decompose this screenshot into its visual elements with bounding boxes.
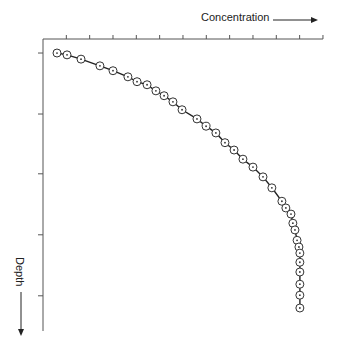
axes [38, 35, 323, 331]
data-point-center-dot [271, 187, 273, 189]
data-point-center-dot [112, 70, 114, 72]
data-point-center-dot [290, 213, 292, 215]
concentration-arrow-head-icon [311, 17, 318, 23]
depth-arrow-head-icon [18, 329, 24, 336]
data-point-center-dot [80, 58, 82, 60]
x-axis-label: Concentration [201, 11, 270, 23]
data-point-center-dot [299, 261, 301, 263]
data-series [53, 49, 304, 312]
y-axis-label: Depth [14, 257, 26, 286]
data-point-center-dot [252, 166, 254, 168]
data-point-center-dot [66, 54, 68, 56]
data-point-center-dot [146, 84, 148, 86]
data-point-center-dot [298, 246, 300, 248]
data-point-center-dot [127, 76, 129, 78]
data-point-center-dot [224, 142, 226, 144]
data-point-center-dot [299, 283, 301, 285]
data-point-center-dot [99, 65, 101, 67]
data-point-center-dot [155, 90, 157, 92]
data-point-center-dot [299, 294, 301, 296]
data-point-center-dot [233, 149, 235, 151]
axis-arrows [18, 17, 318, 336]
data-point-center-dot [281, 200, 283, 202]
data-point-center-dot [299, 307, 301, 309]
data-point-center-dot [181, 109, 183, 111]
data-point-center-dot [163, 95, 165, 97]
data-point-center-dot [296, 239, 298, 241]
data-point-center-dot [136, 81, 138, 83]
data-point-center-dot [292, 222, 294, 224]
data-point-center-dot [299, 271, 301, 273]
depth-concentration-chart [0, 0, 338, 350]
data-point-center-dot [299, 252, 301, 254]
data-point-center-dot [294, 229, 296, 231]
data-point-center-dot [172, 101, 174, 103]
data-point-center-dot [56, 52, 58, 54]
data-point-center-dot [242, 158, 244, 160]
data-point-center-dot [196, 118, 198, 120]
data-point-center-dot [262, 176, 264, 178]
data-point-center-dot [285, 207, 287, 209]
data-point-center-dot [205, 125, 207, 127]
data-point-center-dot [215, 132, 217, 134]
